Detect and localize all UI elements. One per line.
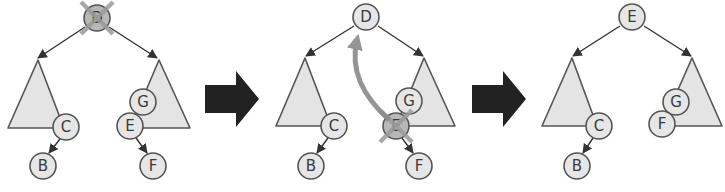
bst-deletion-diagram: C B G E F D [0, 0, 725, 192]
node-label: B [38, 157, 48, 175]
edge-root-right [378, 26, 423, 56]
node-b: B [564, 153, 590, 179]
move-up-arc-arrow [355, 40, 389, 120]
left-subtree-triangle [542, 58, 597, 126]
edge-c-b [317, 138, 328, 153]
node-e-root: E [619, 4, 645, 30]
edge-root-left [573, 26, 620, 56]
node-label: D [360, 8, 372, 26]
right-arrow-icon [472, 71, 526, 127]
left-subtree-triangle [8, 60, 64, 128]
node-label: C [61, 118, 71, 136]
right-arrow-icon [205, 71, 259, 127]
node-label: E [627, 8, 636, 26]
node-label: B [572, 157, 582, 175]
left-subtree-triangle [276, 58, 331, 126]
node-d-deleted: D [81, 2, 113, 34]
node-f: F [140, 153, 166, 179]
edge-e-f [136, 138, 147, 153]
edge-root-left [38, 27, 85, 58]
panel-1: C B G E F D [8, 2, 190, 179]
node-label: B [306, 157, 316, 175]
node-d: D [353, 4, 379, 30]
node-b: B [30, 153, 56, 179]
panel-2: C B G F D E [276, 4, 455, 179]
node-label: G [403, 92, 415, 110]
node-f: F [649, 111, 675, 137]
node-label: E [125, 117, 134, 135]
node-label: F [149, 157, 158, 175]
node-e: E [117, 113, 143, 139]
node-label: F [415, 157, 424, 175]
node-c: C [53, 114, 79, 140]
node-label: C [329, 117, 339, 135]
node-f: F [406, 153, 432, 179]
node-c: C [321, 113, 347, 139]
edge-root-left [306, 26, 354, 56]
edge-c-b [583, 138, 593, 153]
node-g: G [130, 89, 156, 115]
panel-3: C B G F E [542, 4, 722, 179]
edge-root-right [644, 26, 691, 56]
node-b: B [298, 153, 324, 179]
edge-root-right [109, 27, 157, 58]
node-label: G [670, 93, 682, 111]
edge-c-b [49, 139, 60, 153]
node-label: F [658, 115, 667, 133]
node-c: C [586, 113, 612, 139]
node-label: C [594, 117, 604, 135]
node-label: G [137, 93, 149, 111]
